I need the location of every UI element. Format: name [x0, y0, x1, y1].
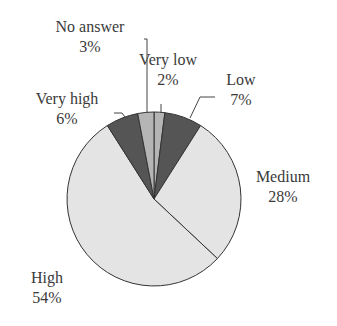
leader-line-low: [190, 97, 215, 118]
leader-line-very-high: [114, 113, 125, 117]
label-no-answer: No answer: [56, 18, 126, 35]
label-low: Low: [226, 71, 256, 88]
pct-label-very-low: 2%: [157, 71, 178, 88]
pct-label-no-answer: 3%: [79, 38, 100, 55]
pct-label-very-high: 6%: [56, 110, 77, 127]
pie-slices: [67, 112, 241, 286]
pie-chart: Very low2%Low7%Medium28%High54%Very high…: [0, 0, 337, 326]
pct-label-medium: 28%: [268, 188, 297, 205]
label-very-low: Very low: [139, 51, 198, 69]
label-medium: Medium: [256, 168, 311, 185]
label-very-high: Very high: [36, 90, 99, 108]
pct-label-low: 7%: [230, 91, 251, 108]
pct-label-high: 54%: [32, 289, 61, 306]
label-high: High: [31, 269, 63, 287]
